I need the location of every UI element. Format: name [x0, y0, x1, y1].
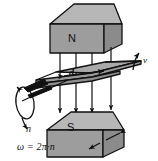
- gap-distance-label: d: [69, 68, 74, 78]
- top-magnet-side-face: [104, 24, 122, 53]
- bottom-magnet-top-face: [47, 112, 124, 130]
- bottom-magnet-front-face: [47, 130, 103, 157]
- top-magnet-top-face: [50, 4, 122, 24]
- south-pole-label: S: [67, 122, 74, 133]
- angular-speed-formula: ω = 2π·n: [17, 142, 55, 152]
- bottom-magnet-side-face: [103, 130, 124, 157]
- diagram-canvas: N S d v n ω = 2π·n: [0, 0, 158, 161]
- physics-diagram-svg: [0, 0, 158, 161]
- velocity-label: v: [143, 56, 147, 65]
- top-magnet-block: [50, 4, 122, 53]
- bottom-magnet-block: [47, 112, 124, 157]
- rotation-ellipse-arrow: [14, 86, 36, 129]
- north-pole-label: N: [68, 33, 76, 44]
- rotation-speed-label: n: [26, 124, 31, 134]
- top-magnet-front-face: [50, 24, 104, 53]
- rotating-disc: [36, 61, 141, 88]
